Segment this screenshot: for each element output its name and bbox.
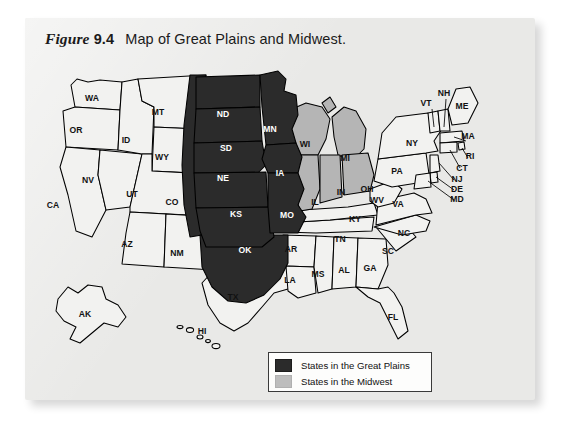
state-label-AR: AR [285, 244, 298, 254]
state-label-MN: MN [263, 124, 276, 134]
state-label-ID: ID [122, 135, 131, 145]
state-RI[interactable] [458, 142, 465, 150]
state-label-NM: NM [170, 248, 183, 258]
state-label-AL: AL [338, 265, 349, 275]
state-label-CO: CO [166, 197, 179, 207]
state-label-NH: NH [438, 88, 450, 98]
state-label-GA: GA [364, 263, 377, 273]
legend-swatch-great-plains [275, 359, 292, 372]
state-label-WV: WV [370, 195, 384, 205]
state-label-IN: IN [337, 187, 346, 197]
state-label-WI: WI [300, 139, 311, 149]
legend-item-midwest: States in the Midwest [275, 373, 425, 389]
state-KS[interactable] [194, 172, 268, 208]
state-label-WY: WY [155, 152, 169, 162]
state-label-IA: IA [276, 168, 285, 178]
map-legend: States in the Great Plains States in the… [268, 352, 432, 392]
us-map: WAORCANVIDMTWYUTCOAZNMTXNDSDNEKSOKMNIAMO… [30, 55, 530, 355]
legend-item-great-plains: States in the Great Plains [275, 357, 425, 373]
state-MI[interactable] [322, 97, 366, 161]
state-MS[interactable] [314, 236, 334, 293]
state-label-RI: RI [466, 151, 475, 161]
legend-label-great-plains: States in the Great Plains [301, 360, 410, 371]
state-label-OR: OR [70, 125, 84, 135]
state-label-TN: TN [334, 234, 345, 244]
state-label-AZ: AZ [121, 239, 132, 249]
state-NH[interactable] [438, 109, 450, 131]
state-label-NV: NV [82, 175, 94, 185]
state-label-DE: DE [451, 184, 463, 194]
state-label-PA: PA [391, 166, 402, 176]
state-label-NJ: NJ [452, 174, 463, 184]
state-label-CA: CA [47, 200, 59, 210]
state-label-ME: ME [456, 101, 469, 111]
state-label-SD: SD [220, 143, 232, 153]
legend-label-midwest: States in the Midwest [301, 376, 392, 387]
legend-swatch-midwest [275, 375, 292, 388]
figure-number: 9.4 [94, 31, 114, 47]
figure-caption: Map of Great Plains and Midwest. [125, 31, 346, 47]
state-label-SC: SC [382, 246, 394, 256]
state-label-MD: MD [450, 194, 463, 204]
state-label-OK: OK [239, 245, 253, 255]
state-label-HI: HI [198, 326, 207, 336]
state-label-FL: FL [388, 312, 399, 322]
state-label-NY: NY [406, 138, 418, 148]
us-map-svg: WAORCANVIDMTWYUTCOAZNMTXNDSDNEKSOKMNIAMO… [30, 55, 530, 355]
figure-container: Figure 9.4 Map of Great Plains and Midwe… [0, 0, 575, 440]
state-label-VT: VT [421, 98, 433, 108]
state-label-MT: MT [152, 107, 165, 117]
state-label-WA: WA [85, 93, 99, 103]
figure-label: Figure [45, 30, 90, 47]
state-label-KY: KY [349, 214, 361, 224]
state-label-AK: AK [79, 309, 92, 319]
state-ND[interactable] [196, 75, 260, 109]
figure-title: Figure 9.4 Map of Great Plains and Midwe… [45, 30, 346, 48]
state-AL[interactable] [332, 237, 358, 289]
state-label-TX: TX [228, 292, 239, 302]
state-label-MI: MI [340, 153, 350, 163]
state-label-NE: NE [217, 173, 229, 183]
state-CT[interactable] [440, 142, 457, 153]
state-label-NC: NC [398, 228, 410, 238]
state-FL[interactable] [356, 287, 408, 339]
state-label-UT: UT [126, 189, 138, 199]
state-label-CT: CT [456, 163, 468, 173]
state-label-MA: MA [461, 131, 474, 141]
state-label-ND: ND [217, 109, 229, 119]
state-label-VA: VA [392, 199, 403, 209]
state-label-OH: OH [361, 184, 374, 194]
state-label-KS: KS [230, 209, 242, 219]
state-label-LA: LA [284, 275, 295, 285]
state-NJ[interactable] [430, 155, 440, 173]
state-label-MO: MO [280, 210, 294, 220]
state-label-IL: IL [311, 197, 319, 207]
state-label-MS: MS [312, 269, 325, 279]
